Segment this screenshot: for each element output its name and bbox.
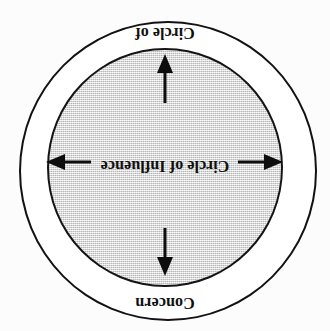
outer-circle-label-line-one: Circle of (0, 25, 330, 41)
arrow-up-icon (157, 228, 173, 276)
circle-of-concern-figure: Concern Circle of Influence Circle of (0, 0, 330, 331)
outer-circle-label-line-two: Concern (0, 295, 330, 311)
diagram-canvas: Concern Circle of Influence Circle of (0, 0, 330, 331)
inner-circle-label: Circle of Influence (0, 158, 330, 174)
arrow-down-icon (157, 54, 173, 103)
